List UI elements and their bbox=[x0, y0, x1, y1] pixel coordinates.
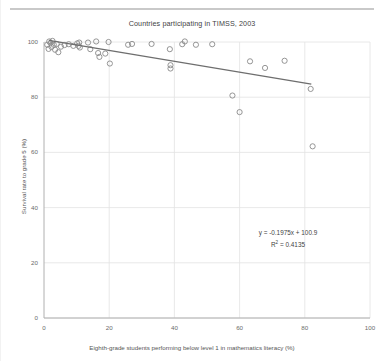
data-points bbox=[45, 38, 316, 149]
regression-annotation: y = -0.1975x + 100.9 R2 = 0.4135 bbox=[228, 228, 348, 250]
y-tick-label: 60 bbox=[8, 148, 38, 155]
y-tick-label: 20 bbox=[8, 259, 38, 266]
data-point bbox=[94, 39, 99, 44]
data-point bbox=[85, 40, 90, 45]
x-tick-label: 0 bbox=[29, 324, 59, 331]
y-tick-label: 0 bbox=[8, 314, 38, 321]
y-tick-label: 100 bbox=[8, 38, 38, 45]
x-tick-label: 60 bbox=[225, 324, 255, 331]
scatter-plot bbox=[0, 0, 384, 361]
y-axis-label: Survival rate to grade 5 (%) bbox=[20, 107, 27, 247]
data-point bbox=[168, 66, 173, 71]
regression-equation: y = -0.1975x + 100.9 bbox=[228, 228, 348, 238]
trendline-segment bbox=[49, 40, 311, 84]
data-point bbox=[193, 42, 198, 47]
x-tick-label: 100 bbox=[355, 324, 384, 331]
y-tick-label: 80 bbox=[8, 93, 38, 100]
r-squared-number: = 0.4135 bbox=[278, 241, 305, 248]
data-point bbox=[107, 61, 112, 66]
gridlines bbox=[44, 42, 370, 318]
data-point bbox=[310, 144, 315, 149]
x-tick-label: 20 bbox=[94, 324, 124, 331]
data-point bbox=[262, 65, 267, 70]
axis-lines bbox=[44, 42, 370, 318]
trendline bbox=[49, 40, 311, 84]
x-axis-label: Eighth-grade students performing below l… bbox=[0, 344, 384, 351]
data-point bbox=[247, 59, 252, 64]
data-point bbox=[167, 47, 172, 52]
data-point bbox=[103, 51, 108, 56]
chart-page: Countries participating in TIMSS, 2003 S… bbox=[0, 0, 384, 361]
r-squared-value: R2 = 0.4135 bbox=[228, 238, 348, 250]
x-tick-label: 40 bbox=[159, 324, 189, 331]
data-point bbox=[282, 58, 287, 63]
data-point bbox=[308, 86, 313, 91]
x-tick-label: 80 bbox=[290, 324, 320, 331]
y-tick-label: 40 bbox=[8, 204, 38, 211]
